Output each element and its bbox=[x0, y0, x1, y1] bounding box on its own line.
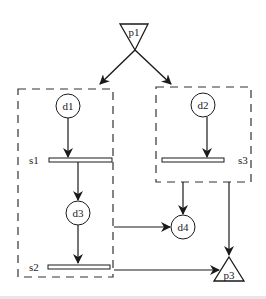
node-s2-label: s2 bbox=[29, 261, 39, 273]
node-s2: s2 bbox=[29, 261, 110, 273]
node-s3: s3 bbox=[162, 154, 248, 166]
node-d3: d3 bbox=[66, 201, 90, 225]
node-s1: s1 bbox=[29, 154, 112, 166]
node-d2-label: d2 bbox=[198, 99, 209, 111]
edge-p1-left bbox=[100, 50, 135, 84]
diagram-canvas: p1 d1 s1 d3 s2 d2 s3 d4 bbox=[0, 0, 266, 299]
node-p3: p3 bbox=[214, 257, 244, 281]
node-d4-label: d4 bbox=[178, 221, 190, 233]
node-p1: p1 bbox=[120, 24, 148, 50]
node-p1-label: p1 bbox=[129, 26, 140, 38]
node-d3-label: d3 bbox=[73, 207, 85, 219]
node-s1-label: s1 bbox=[29, 154, 39, 166]
node-d2: d2 bbox=[191, 93, 215, 117]
edge-p1-right bbox=[135, 50, 171, 84]
node-s3-label: s3 bbox=[238, 154, 248, 166]
node-d1-label: d1 bbox=[63, 100, 74, 112]
node-p3-label: p3 bbox=[224, 269, 236, 281]
node-d4: d4 bbox=[171, 215, 195, 239]
node-d1: d1 bbox=[56, 94, 80, 118]
